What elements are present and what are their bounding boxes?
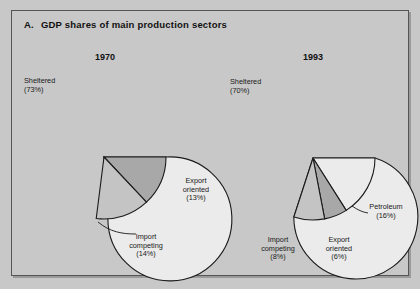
pie-label-1993-sheltered: Sheltered (70%) (230, 78, 261, 95)
figure-panel-a: A.GDP shares of main production sectors … (0, 0, 420, 289)
pie-label-1993-import-competing: Import competing (8%) (245, 236, 311, 262)
pie-label-1993-petroleum: Petroleum (16%) (357, 203, 415, 220)
pie-label-1993-export-oriented: Export oriented (6%) (311, 236, 367, 262)
